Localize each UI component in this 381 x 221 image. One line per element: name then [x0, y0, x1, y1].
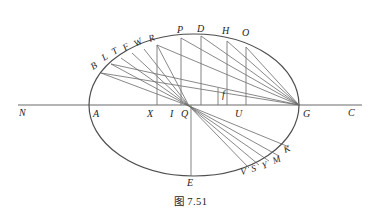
label-A: A	[92, 108, 100, 119]
label-K: K	[281, 143, 292, 155]
geometry-diagram: N C A G E Q I X U B L T F W R P D H O K …	[0, 0, 381, 221]
label-E: E	[186, 177, 193, 188]
label-I: I	[169, 108, 174, 119]
chord-q-m	[189, 106, 279, 156]
vertical-ordinates-group	[157, 36, 246, 176]
label-D: D	[196, 23, 205, 34]
label-G: G	[303, 108, 310, 119]
label-L: L	[99, 51, 110, 63]
chord-r-q	[157, 45, 189, 106]
label-S: S	[250, 163, 257, 174]
label-Q: Q	[181, 108, 189, 119]
label-U: U	[235, 108, 243, 119]
label-P: P	[176, 24, 183, 35]
label-f: f	[222, 89, 226, 100]
label-M: M	[270, 153, 283, 166]
chord-p-g	[181, 38, 299, 105]
label-H: H	[221, 25, 230, 36]
chord-q-s	[189, 106, 259, 165]
label-V: V	[240, 166, 249, 177]
label-C: C	[348, 107, 355, 118]
label-F: F	[120, 41, 131, 53]
figure-container: N C A G E Q I X U B L T F W R P D H O K …	[0, 0, 381, 221]
chord-b-g	[101, 73, 299, 105]
label-O: O	[242, 27, 249, 38]
chord-o-g	[246, 47, 299, 105]
chords-to-g-group	[101, 36, 299, 105]
label-N: N	[18, 107, 27, 118]
label-X: X	[146, 108, 154, 119]
figure-caption: 图 7.51	[0, 193, 381, 208]
label-B: B	[89, 60, 99, 72]
chord-l-g	[111, 64, 299, 105]
